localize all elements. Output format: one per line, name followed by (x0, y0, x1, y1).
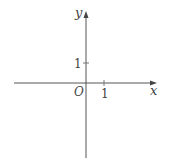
x-tick-label: 1 (101, 87, 109, 101)
coordinate-plane: y x O 1 1 (0, 0, 174, 165)
y-axis-label: y (74, 5, 83, 20)
y-axis-arrow-icon (84, 11, 89, 18)
x-axis-label: x (150, 83, 158, 98)
origin-label: O (74, 85, 84, 99)
y-tick-label: 1 (74, 57, 82, 71)
